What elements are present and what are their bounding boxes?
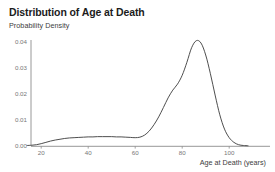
y-tick-label: 0.02 [15, 90, 28, 97]
x-tick-label: 100 [224, 149, 235, 156]
x-tick-label: 40 [85, 149, 92, 156]
y-tick-label: 0.03 [15, 64, 28, 71]
plot-area: 0.000.010.020.030.04 20406080100 [0, 0, 275, 172]
x-tick-label: 60 [132, 149, 139, 156]
x-tick-label: 20 [38, 149, 45, 156]
density-curve-line [27, 40, 248, 145]
x-tick-label: 80 [179, 149, 186, 156]
x-tick-label-group: 20406080100 [38, 146, 235, 155]
chart-figure: Distribution of Age at Death Probability… [0, 0, 275, 172]
y-tick-label-group: 0.000.010.020.030.04 [15, 38, 28, 149]
x-axis-label: Age at Death (years) [200, 158, 266, 167]
y-tick-label: 0.00 [15, 142, 28, 149]
y-tick-label: 0.01 [15, 116, 28, 123]
y-tick-label: 0.04 [15, 38, 28, 45]
